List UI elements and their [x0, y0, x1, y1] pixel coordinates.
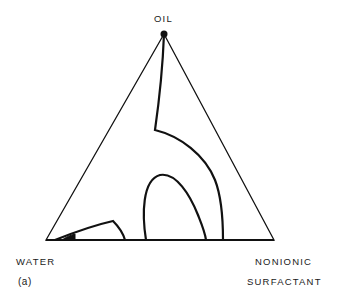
oil-vertex-label: OIL	[154, 13, 173, 24]
panel-label: (a)	[18, 276, 32, 287]
surfactant-vertex-label-line2: SURFACTANT	[247, 276, 322, 287]
inner-arch-region	[144, 175, 206, 240]
water-vertex-label: WATER	[16, 256, 55, 267]
ternary-triangle	[46, 34, 274, 240]
outer-phase-boundary	[155, 34, 223, 240]
surfactant-vertex-label-line1: NONIONIC	[255, 256, 312, 267]
